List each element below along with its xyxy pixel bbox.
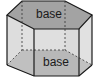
top-base-label: base	[36, 7, 62, 21]
bottom-base-label: base	[43, 55, 69, 69]
hexagonal-prism-diagram: base base	[0, 0, 98, 84]
